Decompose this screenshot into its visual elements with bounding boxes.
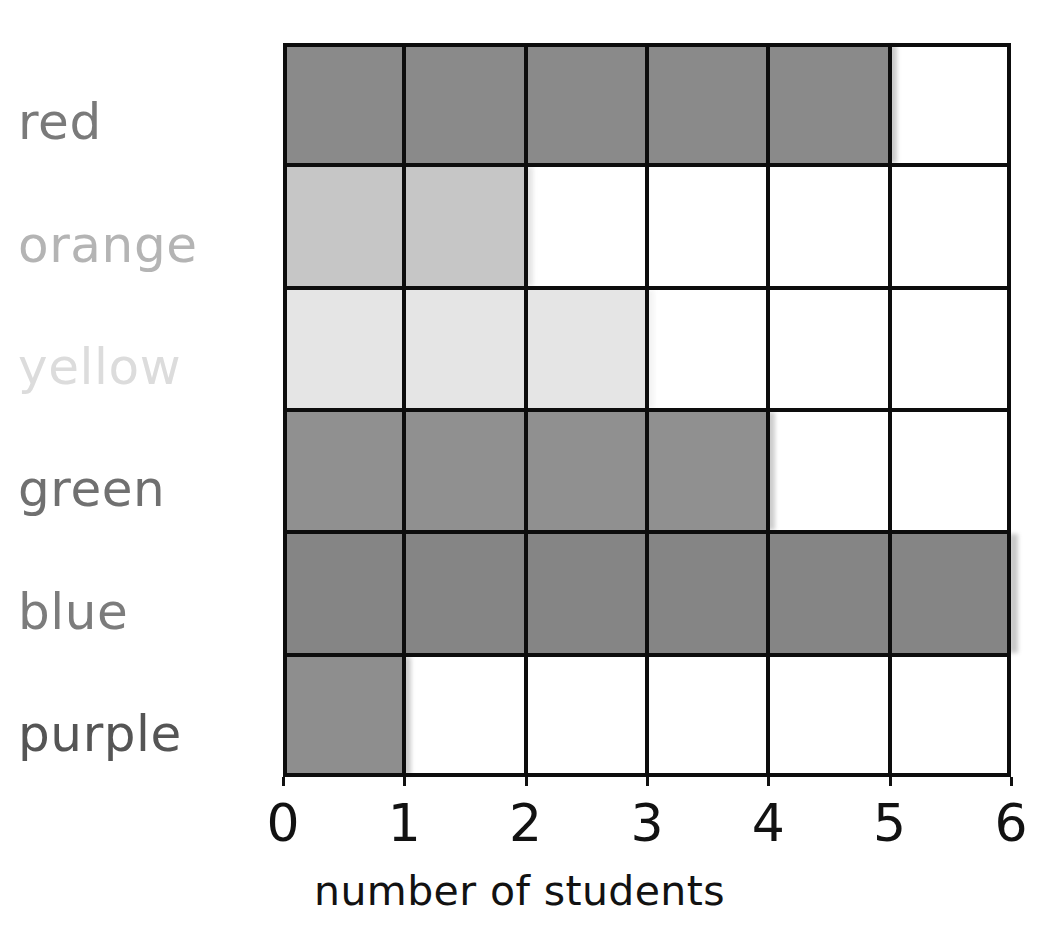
- category-label-yellow: yellow: [18, 288, 276, 410]
- gridline-horizontal-4: [283, 530, 1011, 534]
- x-tick-label-5: 5: [855, 797, 925, 849]
- gridline-horizontal-5: [283, 653, 1011, 657]
- x-tick-label-1: 1: [369, 797, 439, 849]
- gridline-horizontal-2: [283, 286, 1011, 290]
- category-label-blue: blue: [18, 532, 276, 654]
- x-tick-label-2: 2: [491, 797, 561, 849]
- x-tick-mark-1: [403, 777, 406, 786]
- category-label-text: orange: [18, 220, 276, 270]
- x-tick-mark-0: [282, 777, 285, 786]
- category-label-orange: orange: [18, 165, 276, 287]
- category-label-text: blue: [18, 587, 276, 637]
- bar-fill: [283, 655, 404, 777]
- plot-area: [283, 43, 1011, 777]
- x-tick-label-3: 3: [612, 797, 682, 849]
- gridline-horizontal-1: [283, 163, 1011, 167]
- gridline-horizontal-3: [283, 408, 1011, 412]
- bar-yellow: [283, 288, 647, 410]
- x-tick-mark-4: [767, 777, 770, 786]
- gridline-horizontal-0: [283, 43, 1011, 47]
- x-tick-mark-2: [525, 777, 528, 786]
- category-label-text: red: [18, 97, 276, 147]
- x-tick-label-4: 4: [733, 797, 803, 849]
- x-axis-title: number of students: [0, 867, 1039, 915]
- bar-red: [283, 43, 890, 165]
- x-tick-label-0: 0: [248, 797, 318, 849]
- category-label-red: red: [18, 43, 276, 165]
- x-tick-mark-3: [646, 777, 649, 786]
- bar-fill: [283, 288, 647, 410]
- x-tick-mark-6: [1010, 777, 1013, 786]
- cut-off-title: [300, 0, 740, 7]
- category-label-text: purple: [18, 709, 276, 759]
- category-label-text: green: [18, 464, 276, 514]
- bar-purple: [283, 655, 404, 777]
- x-tick-label-6: 6: [976, 797, 1039, 849]
- x-tick-mark-5: [889, 777, 892, 786]
- bar-chart: redorangeyellowgreenbluepurple 0123456 n…: [0, 0, 1039, 942]
- category-label-purple: purple: [18, 655, 276, 777]
- bar-fill: [283, 43, 890, 165]
- category-label-text: yellow: [18, 342, 276, 392]
- category-label-green: green: [18, 410, 276, 532]
